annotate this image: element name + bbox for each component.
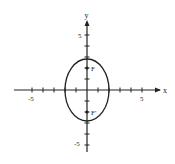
x-tick-label-pos5: 5 (140, 95, 144, 103)
y-axis-label: y (85, 11, 89, 20)
focus-label-top: F (91, 65, 95, 73)
x-axis-label: x (163, 86, 167, 95)
y-tick-label-pos5: 5 (78, 32, 82, 40)
x-tick-label-neg5: -5 (28, 95, 34, 103)
focus-point-top (85, 66, 88, 69)
x-axis-arrow-icon (155, 88, 161, 93)
y-tick-label-neg5: -5 (74, 140, 80, 148)
y-axis-arrow-icon (85, 20, 90, 26)
ellipse-chart: F F' x y -5 5 5 -5 (0, 0, 175, 164)
focus-label-bottom: F' (91, 109, 96, 117)
focus-point-bottom (85, 110, 88, 113)
